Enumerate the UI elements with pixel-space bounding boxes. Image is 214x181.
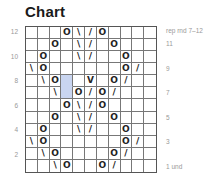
knit-cell bbox=[121, 99, 133, 111]
yarn-over-symbol: O bbox=[109, 148, 121, 160]
knit-cell bbox=[26, 148, 38, 160]
row-number: 12 bbox=[4, 28, 18, 35]
knit-cell bbox=[144, 99, 156, 111]
slip-stitch-symbol: V bbox=[85, 75, 97, 87]
row-number: 4 bbox=[4, 126, 18, 133]
row-label: 1 und bbox=[166, 163, 182, 170]
knit-cell bbox=[38, 112, 50, 124]
yarn-over-symbol: O bbox=[61, 160, 73, 172]
yarn-over-symbol: O bbox=[50, 39, 62, 51]
row-number: 8 bbox=[4, 77, 18, 84]
knit-cell bbox=[144, 148, 156, 160]
yarn-over-symbol: O bbox=[38, 51, 50, 63]
knit-cell bbox=[144, 75, 156, 87]
ssk-symbol: \ bbox=[38, 148, 50, 160]
ssk-symbol: \ bbox=[26, 136, 38, 148]
knitting-chart-grid: O\/OO\/OO\/O\OO/\OVO/\O/O/O\/OO\/OO\/O\O… bbox=[25, 26, 157, 173]
knit-cell bbox=[85, 63, 97, 75]
knit-cell bbox=[26, 39, 38, 51]
knit-cell bbox=[73, 75, 85, 87]
knit-cell bbox=[97, 51, 109, 63]
knit-cell bbox=[144, 39, 156, 51]
knit-cell bbox=[61, 51, 73, 63]
knit-cell bbox=[132, 27, 144, 39]
yarn-over-symbol: O bbox=[121, 63, 133, 75]
row-label: 7 bbox=[166, 89, 170, 96]
knit-cell bbox=[38, 87, 50, 99]
knit-cell bbox=[132, 75, 144, 87]
knit-cell bbox=[73, 160, 85, 172]
yarn-over-symbol: O bbox=[38, 63, 50, 75]
knit-cell bbox=[144, 160, 156, 172]
k2tog-symbol: / bbox=[132, 136, 144, 148]
knit-cell bbox=[109, 124, 121, 136]
knit-cell bbox=[61, 148, 73, 160]
knit-cell bbox=[132, 39, 144, 51]
yarn-over-symbol: O bbox=[97, 160, 109, 172]
knit-cell bbox=[121, 87, 133, 99]
knit-cell bbox=[61, 112, 73, 124]
knit-cell bbox=[121, 112, 133, 124]
knit-cell bbox=[144, 124, 156, 136]
repeat-label: rep rnd 7–12 bbox=[166, 27, 203, 34]
row-label: 9 bbox=[166, 65, 170, 72]
knit-cell bbox=[109, 99, 121, 111]
ssk-symbol: \ bbox=[73, 112, 85, 124]
knit-cell bbox=[121, 39, 133, 51]
knit-cell bbox=[61, 87, 73, 99]
knit-cell bbox=[61, 39, 73, 51]
knit-cell bbox=[121, 27, 133, 39]
knit-cell bbox=[132, 124, 144, 136]
knit-cell bbox=[61, 63, 73, 75]
knit-cell bbox=[97, 148, 109, 160]
knit-cell bbox=[38, 39, 50, 51]
knit-cell bbox=[38, 99, 50, 111]
k2tog-symbol: / bbox=[85, 51, 97, 63]
yarn-over-symbol: O bbox=[73, 87, 85, 99]
yarn-over-symbol: O bbox=[61, 27, 73, 39]
ssk-symbol: \ bbox=[73, 39, 85, 51]
knit-cell bbox=[73, 148, 85, 160]
knit-cell bbox=[26, 27, 38, 39]
row-label: 3 bbox=[166, 138, 170, 145]
chart-title: Chart bbox=[25, 3, 65, 20]
knit-cell bbox=[38, 160, 50, 172]
k2tog-symbol: / bbox=[109, 87, 121, 99]
ssk-symbol: \ bbox=[50, 87, 62, 99]
k2tog-symbol: / bbox=[109, 160, 121, 172]
k2tog-symbol: / bbox=[85, 27, 97, 39]
k2tog-symbol: / bbox=[121, 75, 133, 87]
knit-cell bbox=[144, 136, 156, 148]
k2tog-symbol: / bbox=[85, 39, 97, 51]
yarn-over-symbol: O bbox=[109, 75, 121, 87]
ssk-symbol: \ bbox=[26, 63, 38, 75]
ssk-symbol: \ bbox=[73, 51, 85, 63]
k2tog-symbol: / bbox=[85, 99, 97, 111]
yarn-over-symbol: O bbox=[109, 39, 121, 51]
knit-cell bbox=[97, 39, 109, 51]
k2tog-symbol: / bbox=[85, 87, 97, 99]
knit-cell bbox=[144, 27, 156, 39]
knit-cell bbox=[50, 51, 62, 63]
ssk-symbol: \ bbox=[50, 160, 62, 172]
row-number: 6 bbox=[4, 102, 18, 109]
knit-cell bbox=[132, 99, 144, 111]
yarn-over-symbol: O bbox=[50, 112, 62, 124]
knit-cell bbox=[132, 51, 144, 63]
knit-cell bbox=[132, 112, 144, 124]
knit-cell bbox=[109, 63, 121, 75]
knit-cell bbox=[26, 160, 38, 172]
knit-cell bbox=[97, 75, 109, 87]
knit-cell bbox=[26, 99, 38, 111]
yarn-over-symbol: O bbox=[121, 124, 133, 136]
knit-cell bbox=[50, 124, 62, 136]
yarn-over-symbol: O bbox=[38, 136, 50, 148]
yarn-over-symbol: O bbox=[121, 136, 133, 148]
knit-cell bbox=[97, 63, 109, 75]
knit-cell bbox=[73, 63, 85, 75]
knit-cell bbox=[26, 87, 38, 99]
knit-cell bbox=[61, 136, 73, 148]
knit-cell bbox=[144, 63, 156, 75]
knit-cell bbox=[26, 112, 38, 124]
knit-cell bbox=[38, 27, 50, 39]
